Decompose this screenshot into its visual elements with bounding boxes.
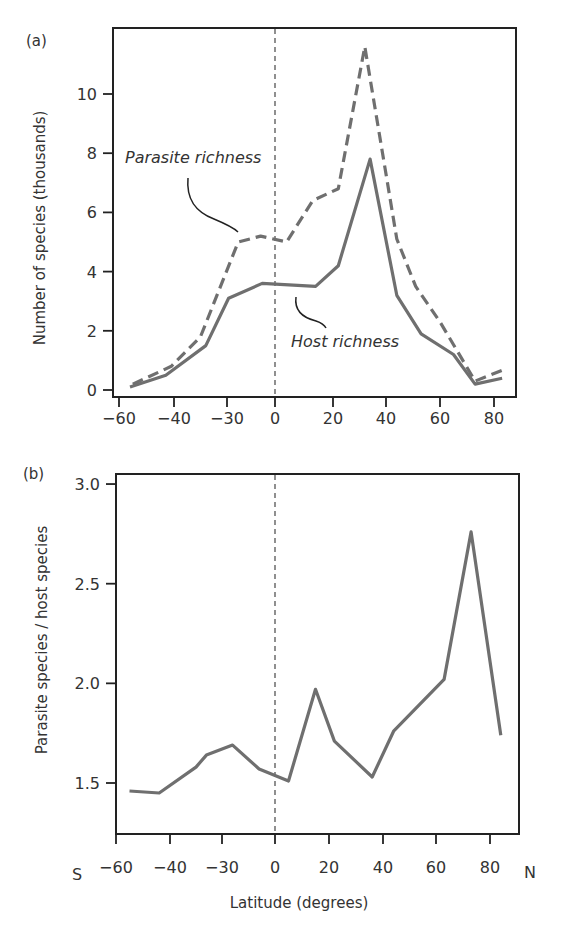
x-tick-label: −60 <box>99 858 133 877</box>
x-tick-label: 60 <box>426 858 446 877</box>
y-tick-label: 2 <box>87 322 97 341</box>
x-tick-label: 80 <box>480 858 500 877</box>
axis-ticks-a: −60−40−300204060800246810 <box>77 85 505 428</box>
series-b <box>130 532 501 793</box>
y-axis-title-a: Number of species (thousands) <box>31 111 49 346</box>
x-tick-label: 20 <box>323 409 343 428</box>
y-tick-label: 2.5 <box>75 575 100 594</box>
x-tick-label: −40 <box>153 858 187 877</box>
figure: (a) −60−40−300204060800246810 Number of … <box>0 0 562 930</box>
x-tick-label: 0 <box>270 858 280 877</box>
x-axis-title: Latitude (degrees) <box>230 894 369 912</box>
panel-a: (a) −60−40−300204060800246810 Number of … <box>26 28 516 428</box>
panel-b-label: (b) <box>23 465 44 483</box>
panel-b: (b) −60−40−300204060801.52.02.53.0 Paras… <box>23 465 536 912</box>
x-tick-label: −60 <box>102 409 136 428</box>
leader-line-host <box>296 297 326 328</box>
y-tick-label: 1.5 <box>75 774 100 793</box>
x-tick-label: 80 <box>484 409 504 428</box>
y-tick-label: 4 <box>87 263 97 282</box>
north-label: N <box>524 863 536 882</box>
series-line-host-richness <box>130 159 502 387</box>
x-tick-label: 40 <box>376 409 396 428</box>
south-label: S <box>72 865 82 884</box>
x-tick-label: 40 <box>373 858 393 877</box>
y-tick-label: 3.0 <box>75 475 100 494</box>
x-tick-label: −40 <box>157 409 191 428</box>
y-tick-label: 2.0 <box>75 674 100 693</box>
x-tick-label: 20 <box>319 858 339 877</box>
y-tick-label: 6 <box>87 203 97 222</box>
y-tick-label: 8 <box>87 144 97 163</box>
y-tick-label: 10 <box>77 85 97 104</box>
axis-ticks-b: −60−40−300204060801.52.02.53.0 <box>75 475 501 877</box>
x-tick-label: −30 <box>205 858 239 877</box>
y-axis-title-b: Parasite species / host species <box>33 526 51 755</box>
leader-line-parasite <box>188 178 238 232</box>
annotation-host-richness: Host richness <box>291 332 399 351</box>
panel-a-label: (a) <box>26 32 47 50</box>
x-tick-label: −30 <box>210 409 244 428</box>
x-tick-label: 60 <box>430 409 450 428</box>
series-line-parasite-species-host-species <box>130 532 501 793</box>
x-tick-label: 0 <box>270 409 280 428</box>
annotation-parasite-richness: Parasite richness <box>125 148 261 167</box>
y-tick-label: 0 <box>87 381 97 400</box>
